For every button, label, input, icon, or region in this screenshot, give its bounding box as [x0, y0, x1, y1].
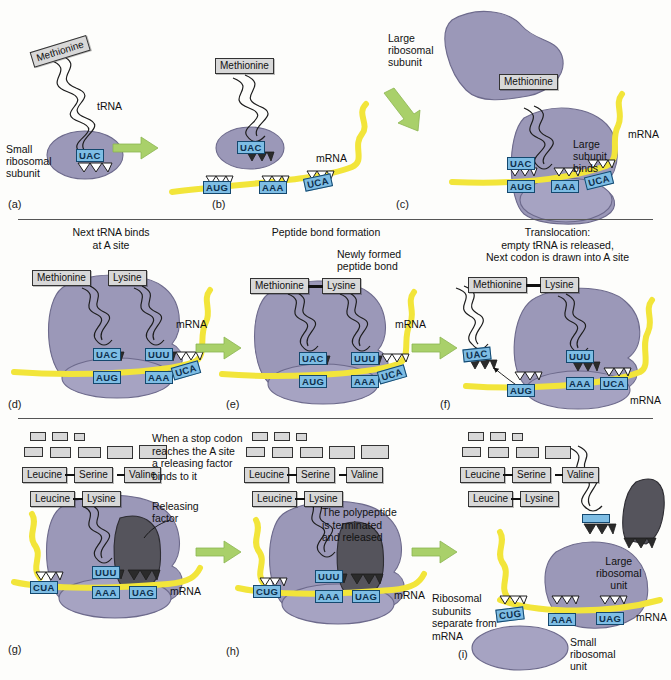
panel-label-e: (e)	[226, 398, 239, 410]
peptide-box-g-1	[30, 432, 46, 441]
large-subunit-label-c: Large ribosomal subunit	[388, 32, 434, 68]
codon-aug-e: AUG	[299, 375, 327, 388]
amino-acid-tag-lysine-h: Lysine	[304, 491, 343, 507]
large-unit-label-i: Large ribosomal unit	[596, 555, 642, 591]
amino-acid-tag-methionine-d: Methionine	[32, 270, 91, 286]
peptide-box-g-3	[74, 433, 85, 441]
row-divider-1	[18, 219, 653, 220]
codon-uca-d: UCA	[171, 360, 201, 380]
codon-aug-c: AUG	[507, 180, 535, 193]
amino-acid-tag-lysine-g: Lysine	[82, 491, 121, 507]
amino-acid-tag-methionine-a: Methionine	[30, 35, 91, 68]
chain-link-g-2	[117, 474, 125, 476]
trna-label-a: tRNA	[97, 100, 122, 112]
chain-link-g-1	[65, 474, 75, 476]
panel-label-b: (b)	[212, 198, 225, 210]
mrna-label-i: mRNA	[636, 611, 667, 623]
anticodon-uuu-g: UUU	[92, 566, 120, 579]
codon-uag-h: UAG	[352, 590, 380, 603]
chain-link-h-2	[339, 474, 347, 476]
panel-label-d: (d)	[8, 398, 21, 410]
codon-aaa-e: AAA	[351, 375, 379, 388]
codon-aaa-d: AAA	[145, 371, 173, 384]
codon-aaa-i: AAA	[548, 613, 576, 626]
codon-cug-i: CUG	[495, 606, 525, 622]
anticodon-uuu-d: UUU	[145, 348, 173, 361]
amino-acid-tag-leucine-i-2: Leucine	[468, 491, 513, 507]
codon-uca-e: UCA	[377, 364, 407, 384]
caption-d: Next tRNA binds at A site	[36, 226, 186, 251]
row-divider-2	[18, 418, 653, 419]
small-unit-label-i: Small ribosomal unit	[570, 636, 616, 672]
panel-label-i: (i)	[458, 648, 468, 660]
chain-link-i-3	[511, 498, 521, 500]
codon-uca-b: UCA	[303, 173, 333, 191]
panel-label-a: (a)	[8, 198, 21, 210]
anticodon-uac-e: UAC	[299, 352, 327, 365]
chain-link-i-2	[555, 474, 563, 476]
codon-aaa-c: AAA	[551, 180, 579, 193]
anticodon-uac-d: UAC	[93, 348, 121, 361]
anticodon-uac-b: UAC	[237, 141, 265, 154]
figure-sheet: Methionine tRNA Small ribosomal subunit …	[0, 0, 671, 680]
peptide-box-h-8	[361, 445, 389, 459]
peptide-box-h-1	[252, 432, 268, 441]
peptide-box-g-2	[52, 432, 68, 441]
codon-aaa-h: AAA	[315, 590, 343, 603]
amino-acid-tag-leucine-g-2: Leucine	[30, 491, 75, 507]
peptide-box-i-3	[512, 433, 523, 441]
peptide-box-i-7	[545, 446, 571, 459]
mrna-label-g: mRNA	[170, 585, 201, 597]
amino-acid-tag-serine-i: Serine	[512, 467, 551, 483]
chain-link-g-3	[73, 498, 83, 500]
codon-uca-f: UCA	[600, 377, 628, 390]
amino-acid-tag-valine-i: Valine	[562, 467, 599, 483]
amino-acid-tag-serine-h: Serine	[296, 467, 335, 483]
peptide-bond-line-e	[308, 285, 323, 288]
panel-label-h: (h)	[226, 645, 239, 657]
codon-uag-g: UAG	[129, 586, 157, 599]
anticodon-uac-c: UAC	[507, 157, 535, 170]
peptide-box-h-3	[296, 433, 307, 441]
anticodon-uuu-f: UUU	[566, 350, 594, 363]
caption-f: Translocation: empty tRNA is released, N…	[450, 226, 665, 264]
anticodon-uac-a: UAC	[76, 149, 104, 162]
anticodon-empty-i	[582, 514, 610, 523]
releasing-factor-label-g: Releasing factor	[152, 500, 199, 524]
caption-g: When a stop codon reaches the A site a r…	[152, 432, 247, 482]
codon-cua-g: CUA	[30, 581, 58, 594]
codon-uag-i: UAG	[596, 612, 624, 625]
amino-acid-tag-methionine-b: Methionine	[215, 58, 274, 74]
amino-acid-tag-leucine-i-1: Leucine	[460, 467, 505, 483]
anticodon-uuu-h: UUU	[315, 570, 343, 583]
peptide-box-h-4	[246, 447, 265, 457]
peptide-box-h-5	[272, 447, 293, 458]
amino-acid-tag-lysine-d: Lysine	[108, 270, 147, 286]
amino-acid-tag-methionine-e: Methionine	[250, 278, 309, 294]
peptide-box-h-6	[300, 447, 323, 458]
large-subunit-binds-label-c: Large subunit binds	[573, 138, 607, 174]
peptide-box-g-5	[50, 447, 71, 458]
mrna-label-d: mRNA	[176, 318, 207, 330]
anticodon-uac-f-released: UAC	[462, 347, 491, 363]
peptide-bond-label-e: Newly formed peptide bond	[337, 248, 401, 272]
amino-acid-tag-serine-g: Serine	[74, 467, 113, 483]
chain-link-h-1	[287, 474, 297, 476]
codon-aug-f: AUG	[507, 384, 535, 397]
mrna-label-b: mRNA	[316, 152, 347, 164]
amino-acid-tag-leucine-h-1: Leucine	[244, 467, 289, 483]
chain-link-i-1	[503, 474, 513, 476]
peptide-box-i-1	[468, 432, 484, 441]
amino-acid-tag-lysine-e: Lysine	[322, 278, 361, 294]
amino-acid-tag-valine-h: Valine	[346, 467, 383, 483]
codon-aug-b: AUG	[203, 181, 231, 194]
peptide-box-g-4	[24, 447, 43, 457]
amino-acid-tag-leucine-h-2: Leucine	[252, 491, 297, 507]
peptide-box-g-6	[78, 447, 101, 458]
peptide-box-h-7	[329, 446, 355, 459]
peptide-box-h-2	[274, 432, 290, 441]
peptide-box-i-2	[490, 432, 506, 441]
caption-h: The polypeptide is terminated and releas…	[322, 506, 417, 544]
peptide-box-i-5	[488, 447, 509, 458]
panel-label-c: (c)	[396, 198, 409, 210]
